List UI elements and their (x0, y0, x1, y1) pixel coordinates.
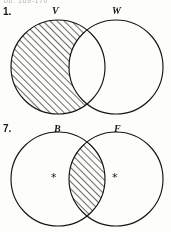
venn-diagram-1 (0, 14, 171, 118)
asterisk-marker-left: * (51, 172, 57, 183)
venn-diagram-7 (0, 133, 171, 232)
worksheet-page: pp. 169-170 1. V W (0, 0, 171, 232)
asterisk-marker-right: * (112, 172, 118, 183)
running-header: pp. 169-170 (4, 0, 48, 3)
